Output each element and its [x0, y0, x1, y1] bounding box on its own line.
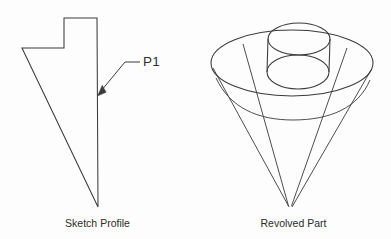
cone-left-silhouette	[213, 68, 289, 207]
boss-top-ellipse	[268, 23, 330, 55]
sketch-profile-group	[22, 18, 98, 207]
boss-bottom-ellipse	[267, 55, 329, 89]
p1-leader-group	[98, 62, 141, 96]
cone-body-arc	[216, 78, 370, 120]
sketch-profile-caption: Sketch Profile	[0, 218, 195, 229]
sketch-profile-outline	[22, 18, 98, 207]
outer-rim-ellipse	[211, 30, 373, 96]
cone-inner-left-ruling	[243, 44, 289, 206]
cone-right-silhouette	[292, 70, 371, 207]
revolved-part-group	[211, 23, 373, 207]
revolved-part-caption: Revolved Part	[196, 218, 391, 229]
figure-canvas: P1 Sketch Profile Revolved Part	[0, 0, 391, 239]
technical-drawing-svg	[0, 0, 391, 239]
p1-annotation-label: P1	[143, 55, 160, 69]
p1-leader-diagonal	[101, 62, 125, 91]
